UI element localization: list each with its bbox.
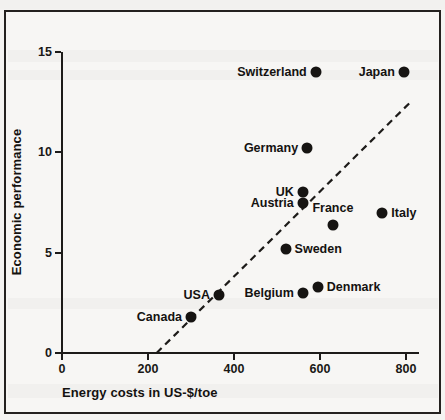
chart-frame [4, 10, 441, 414]
bleed-text: Energy costs and economic performance [20, 0, 294, 8]
page-text-bleed: Energy costs and economic performance [0, 0, 445, 9]
figure-container: Energy costs and economic performance 02… [0, 0, 445, 420]
